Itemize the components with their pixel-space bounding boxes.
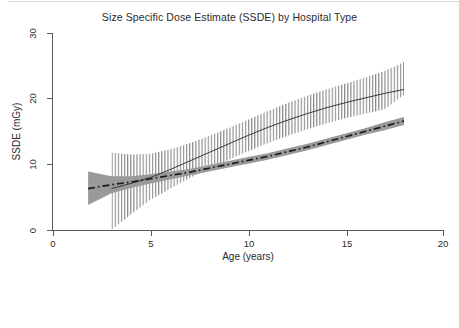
chart-title: Size Specific Dose Estimate (SSDE) by Ho… [0, 11, 459, 23]
y-tick-label-0: 0 [27, 219, 38, 243]
y-axis-title: SSDE (mGy) [11, 72, 22, 192]
x-tick-15 [347, 231, 348, 236]
x-axis-line [52, 230, 444, 231]
x-axis-title: Age (years) [52, 251, 444, 262]
x-tick-label-0: 0 [38, 238, 68, 249]
x-tick-label-10: 10 [234, 238, 264, 249]
ci-band-childrens [88, 117, 404, 205]
line-non-childrens-hospitals [112, 89, 405, 188]
x-tick-5 [151, 231, 152, 236]
y-tick-0 [47, 230, 52, 231]
x-tick-0 [53, 231, 54, 236]
x-tick-20 [443, 231, 444, 236]
x-tick-label-15: 15 [332, 238, 362, 249]
x-tick-10 [249, 231, 250, 236]
y-tick-label-10: 10 [27, 153, 38, 177]
y-axis-line [52, 33, 53, 231]
y-tick-30 [47, 33, 52, 34]
chart-figure: Size Specific Dose Estimate (SSDE) by Ho… [0, 0, 459, 328]
plot-canvas [0, 0, 459, 328]
y-tick-10 [47, 164, 52, 165]
x-tick-label-5: 5 [136, 238, 166, 249]
x-tick-label-20: 20 [428, 238, 458, 249]
line-childrens-hospital [88, 121, 404, 189]
ci-band-non-childrens [112, 62, 405, 230]
y-tick-label-30: 30 [27, 22, 38, 46]
top-divider [8, 1, 459, 2]
chart-legend: 95% CI Mean SSDE Children's Hospital Mea… [0, 283, 459, 323]
y-tick-label-20: 20 [27, 87, 38, 111]
y-tick-20 [47, 98, 52, 99]
